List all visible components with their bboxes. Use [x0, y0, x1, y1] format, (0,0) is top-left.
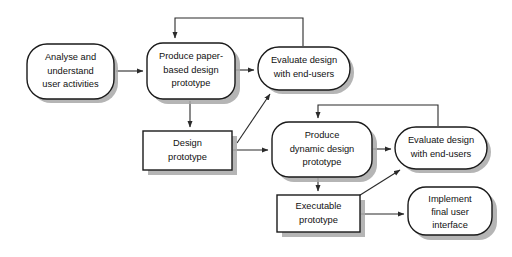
node-outline — [143, 131, 232, 170]
node-label-line: Executable — [296, 201, 342, 211]
node-label-line: Implement — [428, 194, 472, 204]
node-label-line: prototype — [299, 215, 338, 225]
node-label-line: prototype — [303, 157, 342, 167]
node-label-line: interface — [432, 220, 468, 230]
node-label-line: Design — [173, 138, 202, 148]
node-outline — [395, 127, 487, 169]
node-executable-prototype[interactable]: Executable prototype — [277, 195, 365, 237]
node-evaluate-design-2[interactable]: Evaluate design with end-users — [395, 127, 491, 173]
node-label-line: Evaluate design — [271, 55, 337, 65]
node-implement-final-ui[interactable]: Implement final user interface — [408, 187, 497, 240]
node-label-line: based design — [163, 65, 218, 75]
node-label-line: prototype — [168, 152, 207, 162]
prototyping-process-diagram: Analyse and understand user activities P… — [0, 0, 512, 257]
node-label-line: user activities — [42, 79, 99, 89]
node-label-line: Analyse and — [45, 52, 96, 62]
node-design-prototype[interactable]: Design prototype — [143, 131, 237, 175]
node-label-line: Produce paper- — [159, 51, 223, 61]
node-evaluate-design-1[interactable]: Evaluate design with end-users — [258, 47, 354, 94]
node-label-line: prototype — [172, 78, 211, 88]
node-label-line: with end-users — [410, 149, 472, 159]
node-produce-dynamic-prototype[interactable]: Produce dynamic design prototype — [272, 122, 377, 182]
node-label-line: dynamic design — [290, 144, 355, 154]
node-label-line: with end-users — [273, 69, 335, 79]
node-label-line: final user — [431, 207, 469, 217]
edge-design-prototype-to-evaluate1 — [237, 94, 270, 143]
node-label-line: Evaluate design — [408, 135, 474, 145]
node-label-line: understand — [47, 66, 94, 76]
edge-evaluate1-feedback-to-paper — [175, 18, 303, 46]
node-produce-paper-prototype[interactable]: Produce paper- based design prototype — [147, 43, 240, 104]
node-label-line: Produce — [305, 130, 340, 140]
node-analyse[interactable]: Analyse and understand user activities — [27, 44, 118, 103]
